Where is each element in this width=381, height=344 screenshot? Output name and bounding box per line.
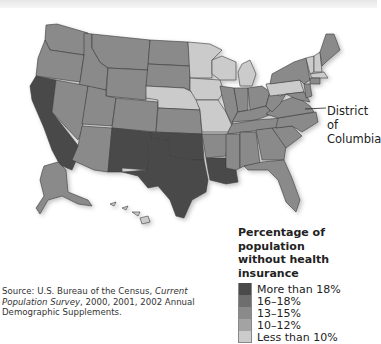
legend-item-10-12: 10–12% [238, 319, 378, 331]
state-hawaii [110, 202, 150, 224]
legend-item-16-18: 16–18% [238, 295, 378, 307]
source-citation: Source: U.S. Bureau of the Census, Curre… [2, 286, 232, 318]
legend-swatch [238, 283, 252, 295]
state-kansas [156, 108, 202, 134]
state-colorado [112, 98, 158, 132]
state-arkansas [202, 134, 228, 158]
legend-swatch [238, 307, 252, 319]
state-north-dakota [148, 40, 190, 66]
state-wisconsin [212, 56, 236, 80]
state-michigan [238, 60, 256, 86]
state-maine [320, 34, 340, 66]
dc-annotation-label: District of Columbia [327, 104, 381, 146]
state-connecticut [310, 78, 320, 84]
state-wyoming [106, 68, 148, 100]
state-mississippi [226, 134, 240, 170]
legend-swatch [238, 319, 252, 331]
state-new-york [270, 58, 310, 84]
state-alaska [36, 162, 92, 214]
legend-title: Percentage of population without health … [238, 226, 378, 280]
map-legend: Percentage of population without health … [238, 226, 378, 343]
state-florida [244, 160, 300, 212]
state-alabama [240, 132, 260, 168]
legend-item-more-than-18: More than 18% [238, 283, 378, 295]
legend-item-13-15: 13–15% [238, 307, 378, 319]
legend-item-less-than-10: Less than 10% [238, 331, 378, 343]
legend-swatch [238, 331, 252, 343]
state-new-mexico [108, 128, 150, 172]
state-iowa [190, 78, 224, 100]
legend-swatch [238, 295, 252, 307]
